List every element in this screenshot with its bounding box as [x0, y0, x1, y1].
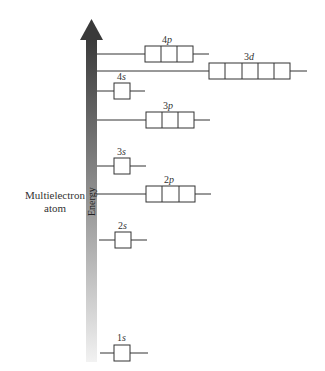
- orbital-3d: [97, 63, 307, 79]
- label-3p: 3p: [163, 100, 173, 111]
- label-4s: 4s: [117, 71, 126, 82]
- orbital-4p: [97, 46, 209, 62]
- orbital-1s: [100, 345, 148, 361]
- label-4p: 4p: [162, 34, 172, 45]
- orbital-levels: [97, 46, 307, 361]
- label-3s: 3s: [117, 146, 126, 157]
- orbital-2p: [97, 186, 211, 202]
- label-2p: 2p: [164, 174, 174, 185]
- orbital-3s: [97, 158, 146, 174]
- energy-diagram: Energy: [0, 0, 325, 371]
- orbital-4s: [97, 83, 145, 99]
- label-2s: 2s: [118, 220, 127, 231]
- orbital-2s: [99, 232, 147, 248]
- energy-axis-label: Energy: [86, 187, 97, 216]
- label-1s: 1s: [117, 332, 126, 343]
- label-3d: 3d: [244, 51, 255, 62]
- orbital-3p: [97, 112, 210, 128]
